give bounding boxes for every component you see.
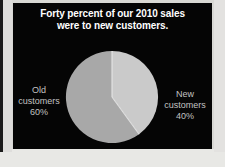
pie-label-new-line-1: New [160,89,210,100]
slide-title-line-1: Forty percent of our 2010 sales [40,8,185,19]
right-margin-strip [214,0,225,152]
pie-label-new-value: 40% [160,111,210,122]
pie-label-old-line-1: Old [15,85,63,96]
pie-label-old-value: 60% [15,107,63,118]
paper-background-lower [0,149,225,167]
left-margin-strip [3,0,12,152]
pie-chart [64,49,160,145]
presentation-slide: Forty percent of our 2010 sales were to … [13,3,212,149]
pie-label-old-customers: Old customers 60% [15,85,63,118]
pie-chart-svg [64,49,160,145]
slide-root: Forty percent of our 2010 sales were to … [0,0,225,167]
slide-title-line-2: were to new customers. [57,20,168,31]
slide-title: Forty percent of our 2010 sales were to … [13,8,212,32]
pie-label-new-line-2: customers [160,100,210,111]
pie-label-new-customers: New customers 40% [160,89,210,122]
pie-label-old-line-2: customers [15,96,63,107]
